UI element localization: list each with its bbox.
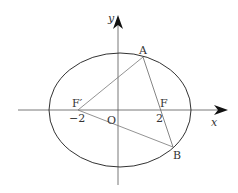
tick-neg2-label: −2: [69, 112, 85, 125]
point-a-label: A: [138, 44, 148, 57]
y-axis-label: y: [107, 12, 115, 25]
segment-fprime-a: [78, 57, 143, 110]
ellipse-diagram: y x O A B F F′ 2 −2: [0, 0, 238, 193]
point-b-label: B: [173, 149, 181, 162]
segment-a-b: [143, 57, 173, 147]
tick-2-label: 2: [156, 112, 163, 125]
origin-label: O: [107, 114, 116, 127]
point-f-prime-label: F′: [72, 97, 83, 110]
point-f-label: F: [160, 97, 168, 110]
x-axis-label: x: [211, 116, 218, 129]
